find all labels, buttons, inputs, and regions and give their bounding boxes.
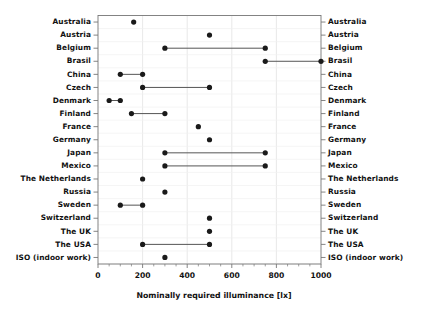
category-label-left: Mexico	[61, 162, 91, 169]
data-point	[140, 85, 145, 90]
category-label-left: ISO (indoor work)	[16, 254, 91, 261]
data-point	[107, 98, 112, 103]
category-label-right: Australia	[328, 18, 367, 25]
data-point	[140, 203, 145, 208]
category-label-right: China	[328, 71, 352, 78]
category-label-left: The USA	[55, 241, 91, 248]
category-label-left: Belgium	[56, 44, 91, 51]
data-point	[207, 229, 212, 234]
category-label-right: The USA	[328, 241, 364, 248]
data-point	[118, 98, 123, 103]
data-point	[263, 163, 268, 168]
category-label-right: Switzerland	[328, 214, 378, 221]
data-point	[207, 85, 212, 90]
category-label-right: The UK	[328, 228, 358, 235]
category-label-left: Finland	[59, 110, 91, 117]
data-point	[162, 111, 167, 116]
data-point	[140, 176, 145, 181]
category-label-right: Russia	[328, 188, 356, 195]
data-point	[118, 203, 123, 208]
category-label-right: Czech	[328, 84, 353, 91]
category-label-right: Austria	[328, 31, 359, 38]
data-point	[207, 242, 212, 247]
category-label-right: Finland	[328, 110, 360, 117]
data-point	[263, 150, 268, 155]
category-label-left: Japan	[67, 149, 91, 156]
data-point	[129, 111, 134, 116]
category-label-left: Russia	[63, 188, 91, 195]
data-point	[162, 255, 167, 260]
data-point	[140, 242, 145, 247]
category-label-left: Australia	[53, 18, 92, 25]
category-label-left: Brasil	[67, 57, 91, 64]
data-point	[162, 46, 167, 51]
category-label-left: China	[67, 71, 91, 78]
category-label-left: Germany	[53, 136, 91, 143]
category-label-right: Mexico	[328, 162, 358, 169]
x-tick-label: 1000	[291, 272, 351, 280]
data-point	[207, 137, 212, 142]
category-label-left: The UK	[61, 228, 91, 235]
category-label-left: Czech	[66, 84, 91, 91]
category-label-right: ISO (indoor work)	[328, 254, 403, 261]
category-label-right: Sweden	[328, 201, 361, 208]
category-label-right: Germany	[328, 136, 366, 143]
category-label-right: Japan	[328, 149, 352, 156]
category-label-right: Denmark	[328, 97, 366, 104]
data-point	[318, 59, 323, 64]
category-label-left: Switzerland	[41, 214, 91, 221]
data-point	[263, 59, 268, 64]
category-label-right: The Netherlands	[328, 175, 399, 182]
data-point	[118, 72, 123, 77]
category-label-right: Brasil	[328, 57, 352, 64]
data-point	[162, 150, 167, 155]
data-series	[107, 19, 324, 260]
data-point	[162, 163, 167, 168]
illuminance-dumbbell-chart: AustraliaAustriaBelgiumBrasilChinaCzechD…	[0, 0, 428, 313]
category-label-left: The Netherlands	[20, 175, 91, 182]
data-point	[196, 124, 201, 129]
x-axis-title: Nominally required illuminance [lx]	[0, 292, 428, 300]
data-point	[263, 46, 268, 51]
data-point	[207, 216, 212, 221]
data-point	[207, 33, 212, 38]
data-point	[162, 189, 167, 194]
category-label-right: France	[328, 123, 356, 130]
category-label-left: France	[63, 123, 91, 130]
category-label-left: Austria	[60, 31, 91, 38]
category-label-left: Sweden	[58, 201, 91, 208]
data-point	[131, 19, 136, 24]
category-label-left: Denmark	[53, 97, 91, 104]
category-label-right: Belgium	[328, 44, 363, 51]
data-point	[140, 72, 145, 77]
